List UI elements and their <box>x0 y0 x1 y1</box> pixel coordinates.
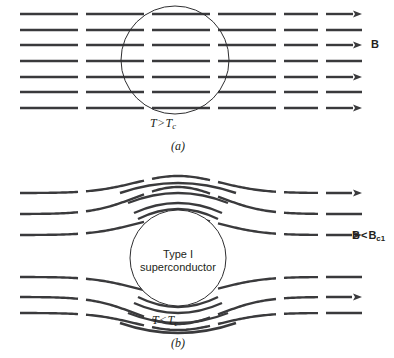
panel-b-condition-subscript: c <box>174 318 178 328</box>
panel-b-field-line-segment <box>86 181 144 192</box>
panel-b-field-line-segment <box>218 223 276 233</box>
field-arrowhead <box>353 294 362 301</box>
panel-a-field-symbol: B <box>371 38 379 50</box>
physics-figure-meissner-effect: B T>Tc (a) B<Bc1 Type I superconductor T… <box>0 0 394 358</box>
panel-a-field-label: B <box>371 38 379 51</box>
panel-b-field-line-segment <box>20 277 78 278</box>
panel-a-caption: (a) <box>0 140 375 154</box>
panel-b-field-symbol: B <box>352 229 360 241</box>
sphere-label-line-1: Type I <box>118 248 238 261</box>
field-arrowhead <box>353 74 362 81</box>
panel-a-condition-subscript: c <box>172 121 176 131</box>
panel-b-field-line-segment <box>152 176 210 180</box>
panel-b-field-line-segment <box>86 194 144 211</box>
panel-b-field-line-segment <box>20 212 78 214</box>
panel-b-field-line-segment <box>284 277 318 278</box>
panel-b-field-line-segment <box>284 297 318 298</box>
panel-b-field-line-segment <box>218 278 276 288</box>
panel-b-field-label: B<Bc1 <box>352 229 385 243</box>
panel-b-field-line-segment <box>20 297 78 299</box>
panel-b-field-line-segment <box>284 234 318 235</box>
superconductor-sphere-label: Type I superconductor <box>118 248 238 273</box>
panel-a-graphics <box>20 6 362 114</box>
panel-b-field-line-segment <box>284 192 318 193</box>
panel-b-condition-variable: T <box>152 313 159 327</box>
panel-a-condition-label: T>Tc <box>150 117 176 132</box>
panel-b-field-line-segment <box>20 313 78 314</box>
panel-b-field-line-segment <box>20 234 78 235</box>
panel-b-field-line-segment <box>86 300 144 317</box>
panel-b-condition-label: T<Tc <box>152 314 178 329</box>
field-arrowhead <box>353 190 362 197</box>
panel-b-field-line-segment <box>284 313 318 314</box>
panel-b-field-line-segment <box>284 213 318 214</box>
panel-b-compressed-arc-bottom <box>128 313 228 323</box>
field-arrowhead <box>353 11 362 18</box>
panel-b-field-subscript: c1 <box>376 234 385 243</box>
field-line-diagram <box>0 0 394 358</box>
panel-b-field-line-segment <box>218 197 276 212</box>
panel-b-field-line-segment <box>218 314 276 324</box>
panel-b-caption: (b) <box>0 337 375 351</box>
field-arrowhead <box>353 42 362 49</box>
panel-b-field-line-segment <box>86 222 144 233</box>
panel-b-field-line-segment <box>218 299 276 314</box>
panel-b-field-line-segment <box>20 192 78 193</box>
panel-a-condition-variable: T <box>150 116 157 130</box>
sphere-label-line-2: superconductor <box>118 261 238 274</box>
field-arrowhead <box>353 105 362 112</box>
